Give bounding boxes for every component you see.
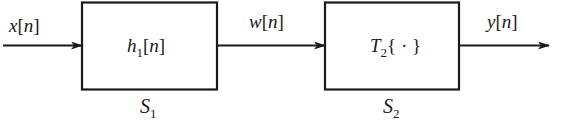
intermediate-signal-label: w[n] — [249, 11, 284, 32]
block-s1-label: S1 — [140, 95, 157, 121]
block-s1-content: h1[n] — [127, 35, 165, 60]
input-signal-label: x[n] — [8, 15, 40, 36]
block-s2-label: S2 — [383, 95, 400, 121]
output-signal-label: y[n] — [485, 11, 518, 32]
block-s2-content: T2{ · } — [370, 35, 421, 60]
block-diagram: x[n] w[n] y[n] h1[n] T2{ · } S1 S2 — [0, 0, 569, 125]
